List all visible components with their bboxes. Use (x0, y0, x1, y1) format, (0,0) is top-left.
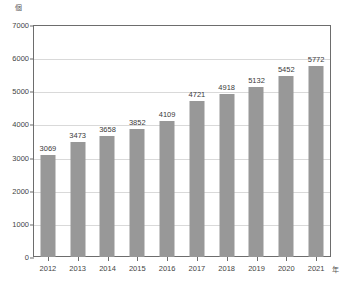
bar-chart: 個 01000200030004000500060007000 30693473… (0, 0, 347, 282)
x-tick-label: 2017 (189, 264, 206, 273)
bar[interactable] (279, 76, 294, 257)
y-axis-unit-label: 個 (15, 3, 22, 12)
y-tick-label: 3000 (12, 155, 29, 163)
y-tick-label: 2000 (12, 188, 29, 196)
bar-value-label: 5132 (248, 76, 265, 85)
bar[interactable] (219, 94, 234, 257)
bar-group: 5772 (301, 25, 331, 257)
bar[interactable] (249, 87, 264, 257)
x-tick-mark (286, 257, 287, 261)
bar-group: 5132 (242, 25, 272, 257)
y-tick-label: 5000 (12, 88, 29, 96)
x-tick-mark (316, 257, 317, 261)
bar-value-label: 3473 (69, 131, 86, 140)
x-tick-mark (227, 257, 228, 261)
bar[interactable] (189, 101, 204, 257)
bar[interactable] (40, 155, 55, 257)
bar-group: 4721 (182, 25, 212, 257)
x-tick-mark (167, 257, 168, 261)
x-tick-mark (108, 257, 109, 261)
bar[interactable] (100, 136, 115, 257)
x-tick-mark (137, 257, 138, 261)
bar[interactable] (70, 142, 85, 257)
x-tick-mark (78, 257, 79, 261)
bar-value-label: 4918 (218, 83, 235, 92)
y-tick-label: 7000 (12, 22, 29, 30)
x-tick-label: 2015 (129, 264, 146, 273)
bar-value-label: 3852 (129, 118, 146, 127)
x-tick-label: 2016 (159, 264, 176, 273)
x-tick-label: 2018 (218, 264, 235, 273)
bar-value-label: 4721 (189, 90, 206, 99)
bar-value-label: 3658 (99, 125, 116, 134)
bar[interactable] (160, 121, 175, 257)
bar[interactable] (309, 66, 324, 257)
x-tick-label: 2013 (69, 264, 86, 273)
y-tick-label: 1000 (12, 221, 29, 229)
bar-value-label: 3069 (40, 144, 57, 153)
x-tick-mark (197, 257, 198, 261)
x-tick-label: 2019 (248, 264, 265, 273)
bar-value-label: 5452 (278, 65, 295, 74)
bar[interactable] (130, 129, 145, 257)
x-tick-label: 2021 (308, 264, 325, 273)
x-tick-label: 2020 (278, 264, 295, 273)
bar-value-label: 4109 (159, 110, 176, 119)
x-tick-mark (257, 257, 258, 261)
bar-group: 5452 (271, 25, 301, 257)
bar-group: 3658 (93, 25, 123, 257)
bar-group: 4109 (152, 25, 182, 257)
x-axis-unit-label: 年 (332, 265, 339, 274)
bars-layer: 3069347336583852410947214918513254525772 (33, 25, 331, 257)
x-tick-mark (48, 257, 49, 261)
bar-value-label: 5772 (308, 55, 325, 64)
bar-group: 3473 (63, 25, 93, 257)
y-tick-label: 6000 (12, 55, 29, 63)
bar-group: 3069 (33, 25, 63, 257)
y-tick-label: 0 (25, 254, 29, 262)
x-tick-label: 2014 (99, 264, 116, 273)
x-axis: 年 20122013201420152016201720182019202020… (33, 257, 331, 282)
bar-group: 4918 (212, 25, 242, 257)
x-tick-label: 2012 (40, 264, 57, 273)
y-tick-label: 4000 (12, 121, 29, 129)
bar-group: 3852 (122, 25, 152, 257)
